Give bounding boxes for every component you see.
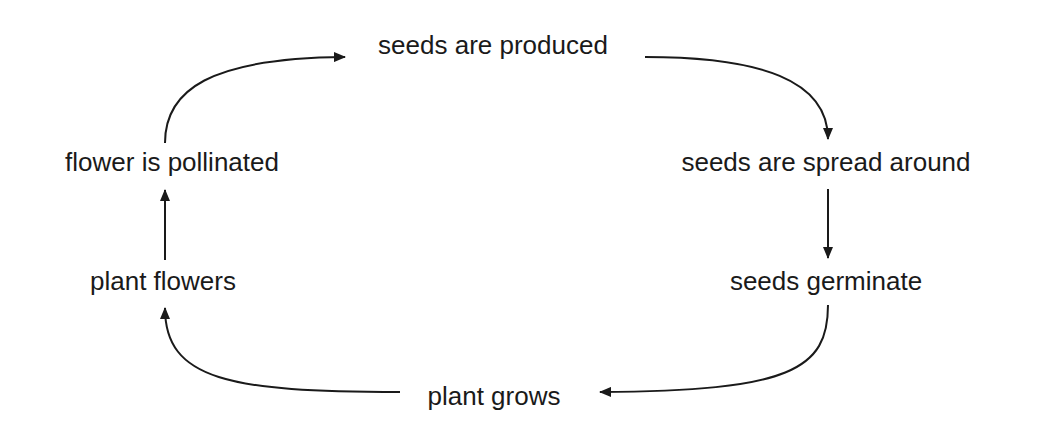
- node-flower-pollinated: flower is pollinated: [65, 149, 279, 175]
- node-plant-grows: plant grows: [428, 383, 561, 409]
- node-seeds-germinate: seeds germinate: [730, 268, 922, 294]
- arrow-germinate-to-grows: [600, 305, 828, 392]
- node-seeds-produced: seeds are produced: [378, 32, 608, 58]
- node-seeds-spread: seeds are spread around: [681, 149, 970, 175]
- plant-life-cycle-diagram: seeds are produced seeds are spread arou…: [0, 0, 1041, 447]
- cycle-arrows: [0, 0, 1041, 447]
- node-plant-flowers: plant flowers: [90, 268, 236, 294]
- arrow-grows-to-flowers: [165, 308, 400, 392]
- arrow-pollinated-to-produced: [165, 57, 345, 143]
- arrow-produced-to-spread: [645, 57, 828, 139]
